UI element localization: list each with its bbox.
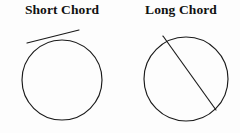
long-chord-chord-line	[163, 36, 216, 110]
panel-short-chord: Short Chord	[0, 0, 122, 133]
panel-long-chord: Long Chord	[122, 0, 240, 133]
short-chord-drawing	[0, 0, 122, 133]
short-chord-circle-outline	[22, 40, 102, 120]
long-chord-drawing	[122, 0, 240, 133]
chord-comparison-figure: Short Chord Long Chord	[0, 0, 240, 133]
